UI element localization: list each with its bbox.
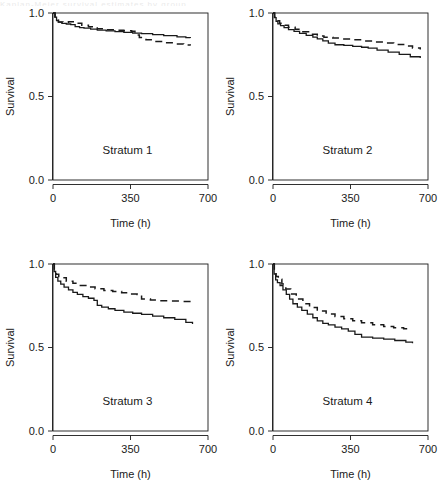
y-axis-title: Survival	[224, 77, 236, 116]
x-axis-title: Time (h)	[330, 468, 371, 480]
y-tick-label: 0.0	[249, 425, 264, 437]
y-tick-label: 1.0	[29, 7, 44, 19]
panel-stratum-3: 0.00.51.00350700Time (h)SurvivalStratum …	[0, 251, 220, 501]
x-tick-label: 350	[341, 192, 359, 204]
y-tick-label: 0.0	[249, 174, 264, 186]
y-tick-label: 0.5	[29, 341, 44, 353]
survival-curve-solid	[53, 13, 190, 38]
x-tick-label: 700	[419, 192, 437, 204]
x-tick-label: 0	[50, 192, 56, 204]
panel-stratum-4: 0.00.51.00350700Time (h)SurvivalStratum …	[220, 251, 440, 501]
survival-curve-solid	[273, 264, 413, 343]
panel-label: Stratum 2	[323, 144, 373, 156]
y-tick-label: 0.5	[249, 341, 264, 353]
survival-curve-dashed	[273, 264, 411, 329]
panel-label: Stratum 4	[323, 395, 373, 407]
y-axis-title: Survival	[224, 328, 236, 367]
survival-curve-dashed	[53, 264, 193, 302]
y-tick-label: 1.0	[249, 258, 264, 270]
y-axis-title: Survival	[4, 77, 16, 116]
panel-label: Stratum 3	[103, 395, 153, 407]
x-tick-label: 350	[341, 443, 359, 455]
y-tick-label: 0.5	[249, 90, 264, 102]
x-tick-label: 350	[121, 192, 139, 204]
x-tick-label: 700	[199, 192, 217, 204]
x-axis-title: Time (h)	[110, 217, 151, 229]
x-tick-label: 350	[121, 443, 139, 455]
x-tick-label: 700	[199, 443, 217, 455]
survival-figure: Kaplan-Meier survival estimates by group…	[0, 0, 440, 501]
y-tick-label: 1.0	[249, 7, 264, 19]
y-tick-label: 0.5	[29, 90, 44, 102]
y-tick-label: 1.0	[29, 258, 44, 270]
panel-label: Stratum 1	[103, 144, 153, 156]
x-tick-label: 0	[270, 443, 276, 455]
x-axis-title: Time (h)	[110, 468, 151, 480]
y-tick-label: 0.0	[29, 174, 44, 186]
survival-curve-solid	[53, 264, 193, 324]
panel-stratum-2: 0.00.51.00350700Time (h)SurvivalStratum …	[220, 0, 440, 250]
x-tick-label: 700	[419, 443, 437, 455]
x-axis-title: Time (h)	[330, 217, 371, 229]
x-tick-label: 0	[270, 192, 276, 204]
y-axis-title: Survival	[4, 328, 16, 367]
y-tick-label: 0.0	[29, 425, 44, 437]
x-tick-label: 0	[50, 443, 56, 455]
survival-curve-solid	[273, 13, 420, 58]
panel-stratum-1: 0.00.51.00350700Time (h)SurvivalStratum …	[0, 0, 220, 250]
survival-curve-dashed	[53, 13, 190, 45]
